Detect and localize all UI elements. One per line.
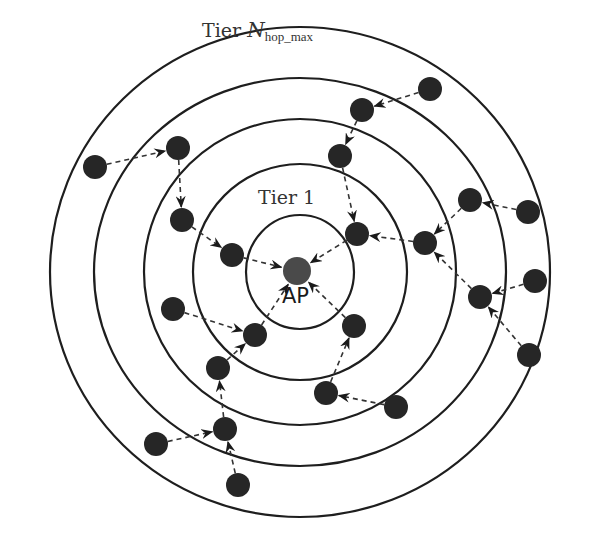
relay-node [517,343,541,367]
tier-max-subscript: hop_max [265,29,313,44]
link-arrow [346,121,357,144]
relay-node [144,432,168,456]
link-arrow [219,381,223,417]
relay-node [83,155,107,179]
relay-node [418,77,442,101]
access-point [283,257,311,285]
relay-node [328,144,352,168]
tier-max-symbol: N [247,18,265,42]
link-arrow [309,282,346,318]
link-arrow [311,240,347,262]
tier-1-label: Tier 1 [258,186,315,208]
relay-node [516,200,540,224]
relay-node [314,381,338,405]
relay-node [350,98,374,122]
relay-node [523,269,547,293]
link-arrow [228,442,235,474]
relay-node [161,297,185,321]
link-arrow [184,313,242,331]
relay-node [213,417,237,441]
tier-max-label: Tier Nhop_max [202,18,313,45]
access-point-node [283,257,311,285]
relay-nodes [83,77,547,497]
tier-max-prefix: Tier [202,19,247,41]
relay-node [345,222,369,246]
relay-node [413,231,437,255]
relay-node [166,136,190,160]
link-arrow [434,252,471,288]
relay-node [226,473,250,497]
link-arrow [370,236,413,242]
link-arrow [434,208,461,234]
relay-node [458,188,482,212]
relay-node [384,395,408,419]
relay-node [170,208,194,232]
relay-node [206,356,230,380]
relay-node [243,323,267,347]
link-arrow [244,258,282,267]
link-arrow [179,160,182,207]
relay-node [220,243,244,267]
link-arrow [492,284,523,293]
relay-node [342,314,366,338]
ap-label: AP [282,284,309,308]
multihop-tier-diagram [0,0,591,550]
link-arrow [168,432,213,442]
link-arrow [339,396,384,405]
relay-node [468,285,492,309]
link-arrow [483,203,517,210]
